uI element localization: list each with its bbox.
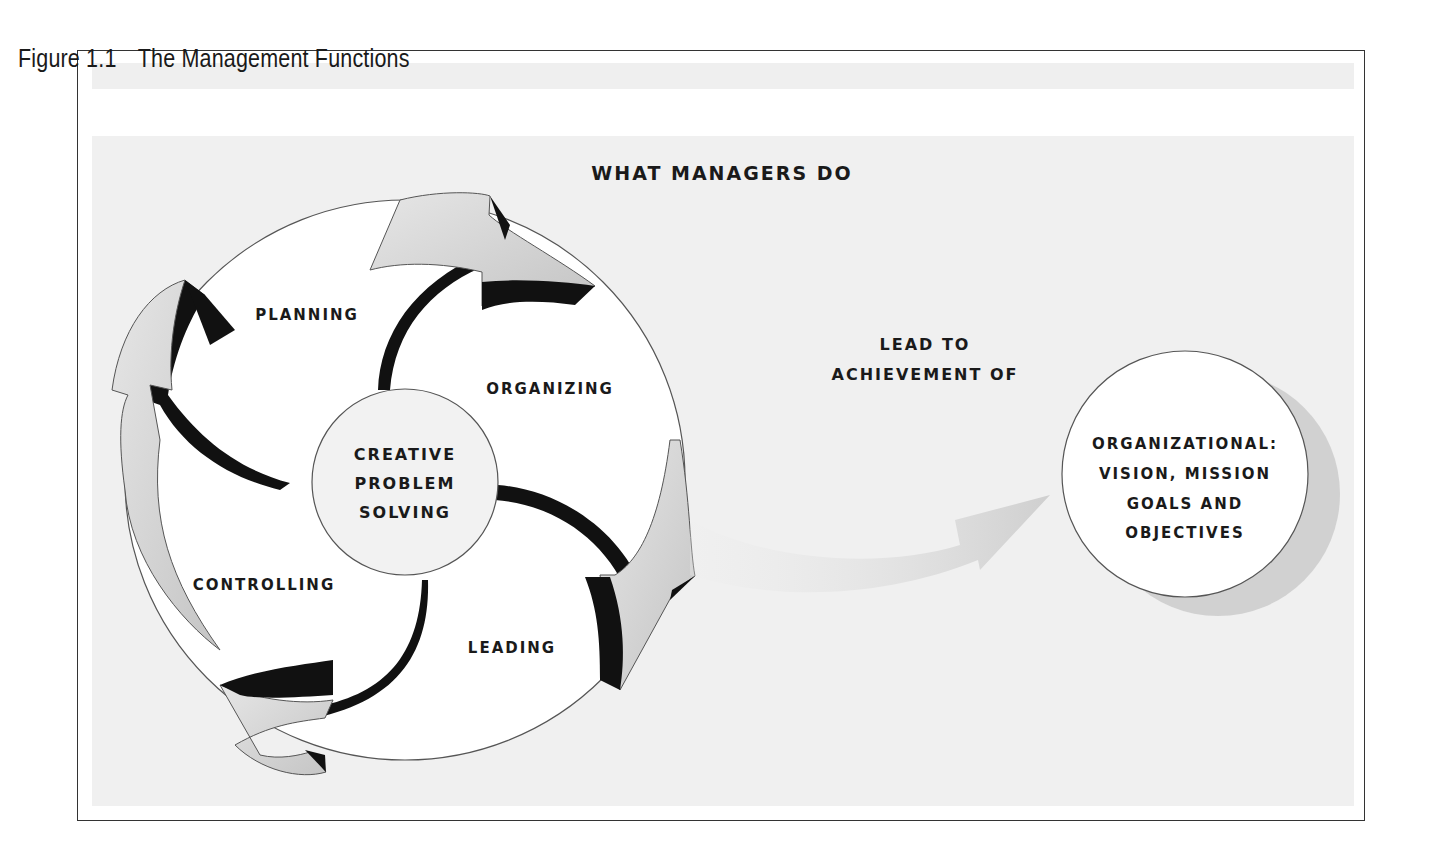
outcome-line-2: vision, mission <box>1099 465 1271 483</box>
achievement-arrow-icon <box>690 495 1050 592</box>
center-line-2: Problem <box>355 474 456 493</box>
connector-line-2: Achievement of <box>832 365 1019 384</box>
management-functions-diagram: What Managers Do Planning Organizing Lea… <box>0 0 1432 862</box>
center-line-1: Creative <box>354 445 456 464</box>
center-line-3: Solving <box>359 503 451 522</box>
outcome-circle <box>1062 351 1340 616</box>
outcome-line-4: objectives <box>1125 524 1245 542</box>
connector-line-1: Lead to <box>880 335 971 354</box>
label-organizing: Organizing <box>486 380 614 398</box>
label-controlling: Controlling <box>193 576 335 594</box>
outcome-line-1: Organizational: <box>1092 435 1278 453</box>
label-leading: Leading <box>468 639 556 657</box>
outcome-line-3: goals and <box>1127 495 1243 513</box>
diagram-heading: What Managers Do <box>591 162 852 184</box>
label-planning: Planning <box>255 306 359 324</box>
